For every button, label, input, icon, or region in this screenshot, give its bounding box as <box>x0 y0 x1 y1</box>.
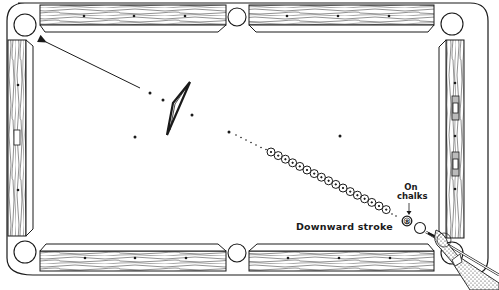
on-chalks-line2: chalks <box>397 192 425 201</box>
right-rail <box>446 40 464 238</box>
top-left-rail <box>40 5 226 25</box>
billiard-diagram: 8 Downward stroke On chalks <box>0 0 499 290</box>
table-frame <box>7 3 488 275</box>
svg-text:8: 8 <box>405 218 409 225</box>
downward-stroke-label: Downward stroke <box>296 222 393 232</box>
top-right-rail <box>249 5 434 25</box>
pocket-top-middle <box>228 8 246 26</box>
on-chalks-label: On chalks <box>397 183 425 200</box>
pocket-bottom-left <box>14 241 36 263</box>
table-drawing: 8 <box>0 0 499 290</box>
pocket-bottom-middle <box>228 244 246 262</box>
eight-ball: 8 <box>402 216 412 226</box>
pocket-top-right <box>441 13 463 35</box>
cue-ball <box>415 223 426 234</box>
bottom-right-rail <box>249 251 434 271</box>
bottom-left-rail <box>40 251 226 271</box>
pocket-top-left <box>14 14 36 36</box>
chalk-holder-left <box>14 130 20 145</box>
